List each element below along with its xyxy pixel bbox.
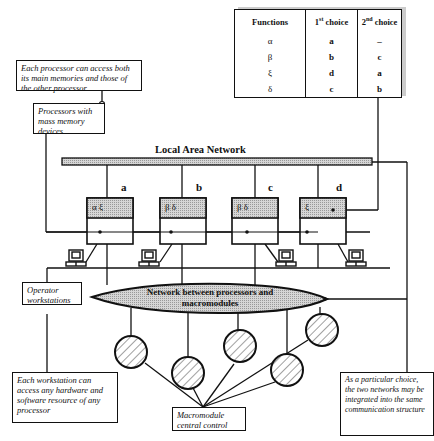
header-second-choice: 2nd choice [358, 10, 402, 33]
cell-second: – [358, 33, 402, 49]
network-label-line2: macromodules [95, 298, 325, 309]
cell-function: ξ [235, 65, 306, 81]
macromodule-2 [172, 357, 204, 389]
processor-d-id: d [336, 181, 342, 193]
note-operator-workstations: Operator workstations [22, 282, 82, 305]
lan-label: Local Area Network [155, 144, 246, 155]
table-row: δ c b [235, 81, 401, 97]
header-first-choice: 1st choice [306, 10, 358, 33]
function-choice-table: Functions 1st choice 2nd choice α a – β … [234, 9, 402, 98]
processor-a-functions: α ξ [92, 202, 103, 212]
cell-second: b [358, 81, 402, 97]
processor-c-functions: β δ [237, 202, 248, 212]
macromodule-5 [306, 314, 338, 346]
network-label: Network between processors and macromodu… [95, 287, 325, 309]
cell-function: β [235, 49, 306, 65]
table-row: β b c [235, 49, 401, 65]
processor-b-id: b [196, 181, 202, 193]
processor-a-id: a [121, 181, 127, 193]
note-macromodule-control: Macromodule central control [172, 407, 246, 431]
cell-second: a [358, 65, 402, 81]
processor-d-functions: ξ [305, 202, 309, 212]
cell-function: α [235, 33, 306, 49]
cell-first: d [306, 65, 358, 81]
macromodule-4 [271, 354, 303, 386]
note-workstation-access: Each workstation can access any hardware… [12, 372, 118, 423]
note-integration: As a particular choice, the two networks… [340, 372, 434, 436]
cell-first: b [306, 49, 358, 65]
cell-first: c [306, 81, 358, 97]
network-label-line1: Network between processors and [95, 287, 325, 298]
table-row: ξ d a [235, 65, 401, 81]
cell-first: a [306, 33, 358, 49]
note-mass-memory: Processors with mass memory devices [33, 103, 105, 134]
macromodule-1 [115, 336, 147, 368]
lan-bar [62, 158, 372, 165]
macromodule-3 [224, 330, 256, 362]
note-processor-access: Each processor can access both its main … [16, 60, 142, 91]
processor-b-functions: β δ [165, 202, 176, 212]
cell-function: δ [235, 81, 306, 97]
processor-c-id: c [268, 181, 273, 193]
header-functions: Functions [235, 10, 306, 33]
cell-second: c [358, 49, 402, 65]
table-row: α a – [235, 33, 401, 49]
